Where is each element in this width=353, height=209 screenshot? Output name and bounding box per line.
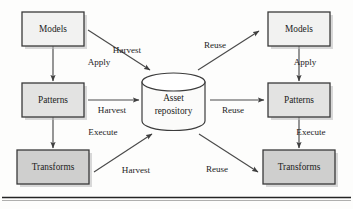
edge-reuse-models xyxy=(198,31,259,70)
edge-label-reuse-transforms: Reuse xyxy=(206,164,228,174)
node-models-left-label: Models xyxy=(39,24,67,34)
node-models-left[interactable]: Models xyxy=(22,12,87,49)
node-asset-repository[interactable]: Asset repository xyxy=(142,73,205,131)
node-patterns-right-label: Patterns xyxy=(284,95,314,105)
node-transforms-left[interactable]: Transforms xyxy=(17,150,92,187)
edge-label-execute-right: Execute xyxy=(296,127,325,137)
edge-label-reuse-models: Reuse xyxy=(204,40,226,50)
node-patterns-left[interactable]: Patterns xyxy=(22,83,87,120)
node-asset-repository-label-line2: repository xyxy=(155,106,193,116)
edge-label-apply-left: Apply xyxy=(88,57,111,67)
node-transforms-right-label: Transforms xyxy=(278,162,321,172)
edge-label-apply-right: Apply xyxy=(294,57,317,67)
node-models-right[interactable]: Models xyxy=(268,12,333,49)
diagram-canvas: Models Patterns Transforms Asset reposit… xyxy=(0,0,353,209)
node-transforms-left-label: Transforms xyxy=(32,162,75,172)
node-asset-repository-label-line1: Asset xyxy=(163,93,184,103)
edge-label-reuse-patterns: Reuse xyxy=(222,105,244,115)
node-patterns-left-label: Patterns xyxy=(38,95,68,105)
edge-label-execute-left: Execute xyxy=(88,127,117,137)
node-patterns-right[interactable]: Patterns xyxy=(268,83,333,120)
edge-label-harvest-patterns: Harvest xyxy=(98,105,127,115)
edge-label-harvest-transforms: Harvest xyxy=(122,165,151,175)
edge-label-harvest-models: Harvest xyxy=(113,45,142,55)
node-models-right-label: Models xyxy=(285,24,313,34)
asset-repository-flow-diagram: Models Patterns Transforms Asset reposit… xyxy=(0,0,353,209)
node-transforms-right[interactable]: Transforms xyxy=(263,150,338,187)
